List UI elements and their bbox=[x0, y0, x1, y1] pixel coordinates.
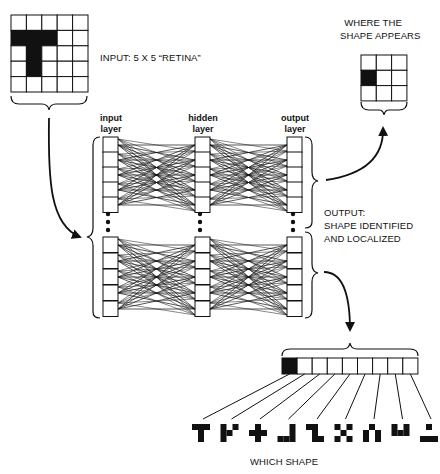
neuron bbox=[103, 301, 118, 317]
grid-cell bbox=[376, 55, 391, 70]
neuron bbox=[287, 269, 302, 285]
shape-vector-cell bbox=[403, 358, 418, 374]
shape-connector bbox=[289, 374, 335, 419]
output-layer-line1: output bbox=[278, 113, 312, 124]
neuron bbox=[103, 253, 118, 269]
grid-cell bbox=[361, 86, 376, 101]
neuron bbox=[287, 253, 302, 269]
input-brace bbox=[11, 96, 87, 110]
shape-arch-icon bbox=[363, 424, 381, 442]
shape-vector bbox=[282, 358, 418, 374]
neuron bbox=[103, 269, 118, 285]
shape-vector-cell bbox=[342, 358, 357, 374]
grid-cell bbox=[361, 55, 376, 70]
shape-glyphs bbox=[192, 374, 438, 442]
grid-cell bbox=[26, 77, 41, 92]
grid-cell bbox=[11, 61, 26, 76]
neuron bbox=[195, 152, 210, 168]
grid-cell bbox=[73, 30, 88, 45]
neuron bbox=[103, 237, 118, 253]
ellipsis-dot bbox=[291, 212, 295, 216]
location-label-line2: SHAPE APPEARS bbox=[340, 29, 406, 42]
output-layer-line2: layer bbox=[278, 124, 312, 135]
shape-vector-brace bbox=[282, 343, 418, 356]
neuron bbox=[195, 269, 210, 285]
grid-cell bbox=[11, 30, 26, 45]
neural-network bbox=[103, 137, 302, 317]
ellipsis-dot bbox=[198, 212, 202, 216]
output-label-line2: SHAPE IDENTIFIED bbox=[324, 219, 413, 232]
neuron bbox=[103, 197, 118, 213]
grid-cell bbox=[42, 61, 57, 76]
location-label-line1: WHERE THE bbox=[340, 16, 406, 29]
grid-cell bbox=[392, 86, 407, 101]
neuron bbox=[287, 237, 302, 253]
which-shape-label: WHICH SHAPE bbox=[250, 456, 318, 467]
shape-J-icon bbox=[278, 424, 296, 442]
grid-cell bbox=[57, 77, 72, 92]
location-grid bbox=[361, 55, 407, 101]
shape-vector-cell bbox=[388, 358, 403, 374]
shape-bars-icon bbox=[420, 424, 438, 442]
grid-cell bbox=[42, 30, 57, 45]
grid-cell bbox=[11, 46, 26, 61]
grid-cell bbox=[376, 86, 391, 101]
neuron bbox=[195, 182, 210, 198]
shape-connector bbox=[346, 374, 366, 419]
grid-cell bbox=[73, 15, 88, 30]
ellipsis-dot bbox=[291, 228, 295, 232]
shape-plus-icon bbox=[249, 424, 267, 442]
grid-cell bbox=[26, 61, 41, 76]
shape-T-icon bbox=[192, 424, 210, 442]
grid-cell bbox=[26, 30, 41, 45]
shape-vector-cell bbox=[297, 358, 312, 374]
output-label-line3: AND LOCALIZED bbox=[324, 232, 413, 245]
hidden-layer-label: hidden layer bbox=[186, 113, 220, 135]
input-layer-line2: layer bbox=[96, 124, 126, 135]
grid-cell bbox=[57, 30, 72, 45]
ellipsis-dot bbox=[198, 220, 202, 224]
neuron bbox=[195, 197, 210, 213]
output-layer-label: output layer bbox=[278, 113, 312, 135]
shape-vector-cell bbox=[282, 358, 297, 374]
shape-vector-cell bbox=[312, 358, 327, 374]
neuron bbox=[195, 285, 210, 301]
hidden-layer-line2: layer bbox=[186, 124, 220, 135]
input-label: INPUT: 5 X 5 “RETINA” bbox=[100, 52, 201, 63]
neuron bbox=[287, 152, 302, 168]
network-output-brace-top bbox=[305, 137, 318, 228]
output-label: OUTPUT: SHAPE IDENTIFIED AND LOCALIZED bbox=[324, 206, 413, 245]
shape-connector bbox=[203, 374, 290, 419]
input-retina-grid bbox=[11, 15, 88, 92]
shape-connector bbox=[410, 374, 431, 419]
grid-cell bbox=[26, 15, 41, 30]
ellipsis-dot bbox=[106, 212, 110, 216]
neuron bbox=[287, 182, 302, 198]
input-layer-label: input layer bbox=[96, 113, 126, 135]
neuron bbox=[195, 237, 210, 253]
shape-connector bbox=[317, 374, 350, 419]
neuron bbox=[287, 301, 302, 317]
shape-connector bbox=[374, 374, 380, 419]
grid-cell bbox=[73, 61, 88, 76]
grid-cell bbox=[73, 77, 88, 92]
neuron bbox=[103, 152, 118, 168]
grid-cell bbox=[361, 70, 376, 85]
grid-cell bbox=[26, 46, 41, 61]
grid-cell bbox=[57, 46, 72, 61]
ellipsis-dot bbox=[291, 220, 295, 224]
input-layer-line1: input bbox=[96, 113, 126, 124]
network-output-brace-bottom bbox=[305, 232, 318, 318]
shape-vector-cell bbox=[327, 358, 342, 374]
ellipsis-dot bbox=[106, 228, 110, 232]
grid-cell bbox=[376, 70, 391, 85]
neuron bbox=[195, 167, 210, 183]
shape-X-icon bbox=[335, 424, 353, 442]
neuron bbox=[287, 137, 302, 153]
neuron bbox=[195, 253, 210, 269]
shape-U-icon bbox=[392, 424, 410, 436]
input-arrow bbox=[49, 118, 80, 237]
neuron bbox=[103, 137, 118, 153]
shape-vector-cell bbox=[373, 358, 388, 374]
location-label: WHERE THE SHAPE APPEARS bbox=[340, 16, 406, 42]
